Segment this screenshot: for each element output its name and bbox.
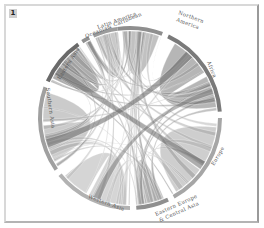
chord-diagram: Northern America Africa Europe Eastern E…	[0, 0, 264, 228]
